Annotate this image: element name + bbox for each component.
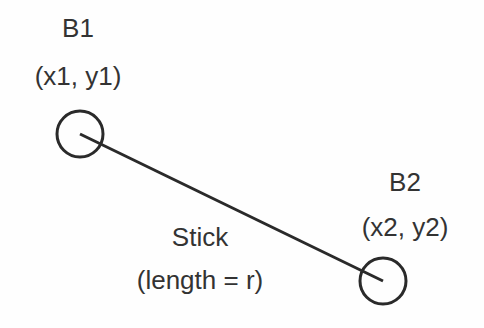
b2-coords: (x2, y2) bbox=[345, 212, 465, 242]
b2-name: B2 bbox=[375, 167, 435, 197]
diagram: B1 (x1, y1) B2 (x2, y2) Stick (length = … bbox=[0, 0, 484, 328]
stick-label: Stick bbox=[150, 222, 250, 252]
b1-coords: (x1, y1) bbox=[18, 61, 138, 91]
stick-line bbox=[80, 134, 383, 281]
stick-length: (length = r) bbox=[120, 265, 280, 295]
b1-name: B1 bbox=[48, 13, 108, 43]
